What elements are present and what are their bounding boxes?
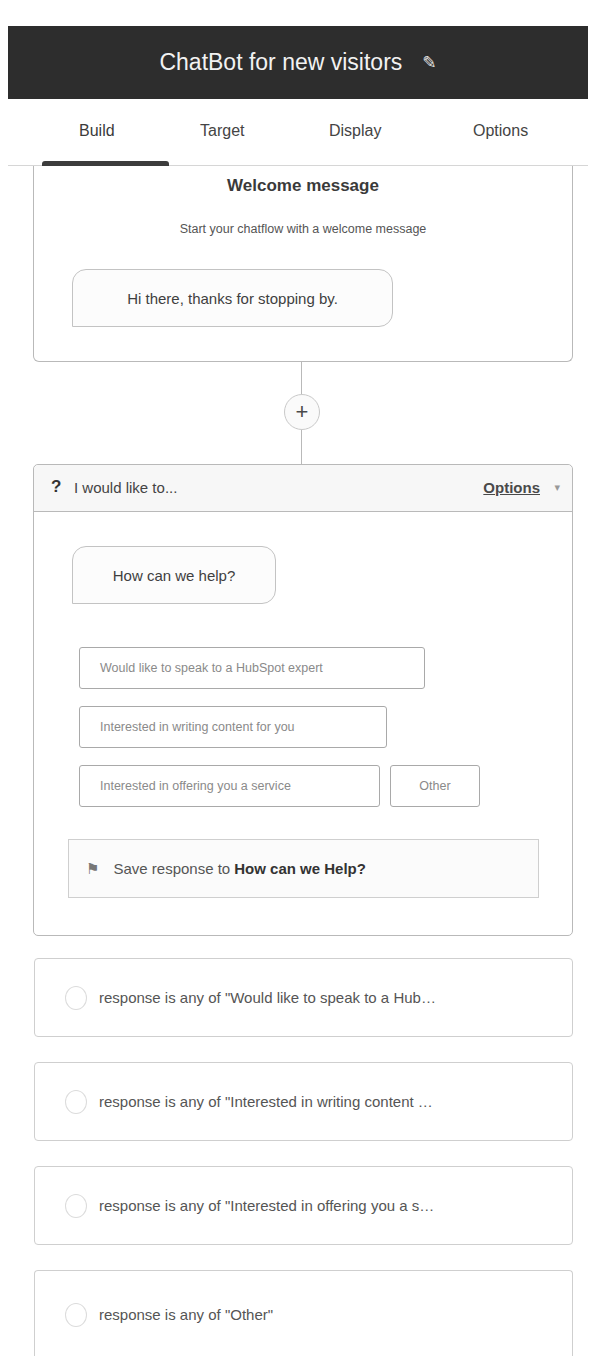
save-response-property: How can we Help? [234, 860, 366, 877]
plus-icon: + [296, 401, 309, 423]
save-response-label: Save response to [113, 860, 230, 877]
pencil-icon[interactable]: ✎ [422, 52, 436, 73]
welcome-message-card[interactable]: Welcome message Start your chatflow with… [33, 166, 573, 362]
chevron-down-icon[interactable]: ▾ [554, 481, 560, 494]
quick-reply-choice[interactable]: Interested in writing content for you [79, 706, 387, 748]
branch-label: response is any of "Other" [99, 1306, 273, 1323]
branch-row[interactable]: response is any of "Would like to speak … [34, 958, 573, 1037]
branch-row[interactable]: response is any of "Interested in writin… [34, 1062, 573, 1141]
welcome-subtitle: Start your chatflow with a welcome messa… [34, 222, 572, 236]
chatbot-title-bar: ChatBot for new visitors ✎ [8, 26, 588, 99]
radio-circle-icon[interactable] [65, 1090, 87, 1114]
question-icon: ? [51, 477, 61, 497]
add-step-button[interactable]: + [284, 394, 320, 430]
branch-row[interactable]: response is any of "Other" [34, 1270, 573, 1356]
question-card[interactable]: ? I would like to... Options ▾ How can w… [33, 464, 573, 936]
tab-options[interactable]: Options [473, 122, 528, 140]
branch-label: response is any of "Would like to speak … [99, 989, 436, 1006]
question-message-bubble[interactable]: How can we help? [72, 546, 276, 604]
tab-build[interactable]: Build [79, 122, 115, 140]
welcome-title: Welcome message [34, 176, 572, 196]
quick-reply-choice-other[interactable]: Other [390, 765, 480, 807]
radio-circle-icon[interactable] [65, 1194, 87, 1218]
save-response-field[interactable]: ⚑ Save response to How can we Help? [68, 839, 539, 898]
chatbot-title: ChatBot for new visitors [159, 49, 402, 76]
tab-target[interactable]: Target [200, 122, 244, 140]
branch-row[interactable]: response is any of "Interested in offeri… [34, 1166, 573, 1245]
quick-reply-choice[interactable]: Interested in offering you a service [79, 765, 380, 807]
options-dropdown-link[interactable]: Options [483, 479, 540, 496]
flag-icon: ⚑ [86, 860, 99, 878]
tab-display[interactable]: Display [329, 122, 381, 140]
flow-connector-line [301, 430, 302, 464]
radio-circle-icon[interactable] [65, 1303, 87, 1327]
welcome-message-bubble[interactable]: Hi there, thanks for stopping by. [72, 269, 393, 327]
quick-reply-choice[interactable]: Would like to speak to a HubSpot expert [79, 647, 425, 689]
tab-bar: Build Target Display Options [8, 100, 588, 166]
branch-label: response is any of "Interested in writin… [99, 1093, 433, 1110]
branch-label: response is any of "Interested in offeri… [99, 1197, 434, 1214]
question-title: I would like to... [74, 479, 177, 496]
flow-connector-line [301, 362, 302, 394]
radio-circle-icon[interactable] [65, 986, 87, 1010]
question-card-header: ? I would like to... Options ▾ [34, 465, 572, 512]
